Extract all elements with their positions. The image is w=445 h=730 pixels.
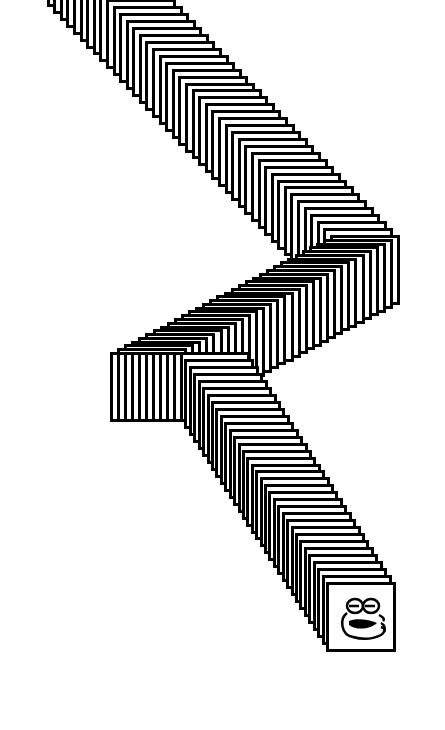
frog-face-icon <box>335 591 393 649</box>
desktop <box>0 0 445 730</box>
dragged-window[interactable] <box>326 582 396 652</box>
